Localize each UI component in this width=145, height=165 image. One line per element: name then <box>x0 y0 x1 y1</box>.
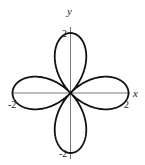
y-min-tick-label: -2 <box>59 148 67 159</box>
x-max-tick-label: 2 <box>124 99 129 110</box>
x-axis-label: x <box>132 87 138 99</box>
y-max-tick-label: 2 <box>62 28 67 39</box>
polar-rose-chart: y x 2 -2 -2 2 <box>0 0 145 165</box>
x-min-tick-label: -2 <box>8 99 16 110</box>
y-axis-label: y <box>66 5 72 17</box>
